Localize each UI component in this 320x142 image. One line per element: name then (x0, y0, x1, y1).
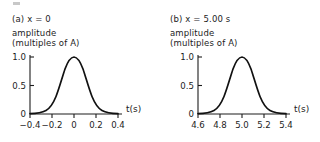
panel-b-xtick-label-2: 5.0 (235, 120, 249, 130)
panel-b-xtick-label-0: 4.6 (191, 120, 205, 130)
panel-a-xtick-label-3: 0.2 (89, 120, 103, 130)
panel-a-ytick-label-0: 0 (21, 109, 26, 119)
panel-a-xtick-label-4: 0.4 (111, 120, 125, 130)
panel-a-xaxis-name: t(s) (126, 104, 141, 114)
panel-a-xtick-label-2: 0 (71, 120, 76, 130)
panel-b-ytick-label-05: 0.5 (180, 81, 194, 91)
panel-b-xtick-label-4: 5.4 (279, 120, 293, 130)
panel-a-plot: 1.0 0.5 0 −0.4 −0.2 0 0.2 0.4 t(s) (0, 0, 160, 142)
panel-a-xtick-label-0: −0.4 (20, 120, 41, 130)
figure-wave-pulse-snapshots: (a) x = 0 amplitude (multiples of A) 1.0… (0, 0, 320, 142)
panel-b-xtick-label-1: 4.8 (213, 120, 227, 130)
panel-b-xtick-label-3: 5.2 (257, 120, 271, 130)
panel-b: (b) x = 5.00 s amplitude (multiples of A… (160, 0, 320, 142)
panel-b-xaxis-name: t(s) (294, 104, 309, 114)
panel-a-ytick-label-1: 1.0 (12, 52, 26, 62)
panel-a: (a) x = 0 amplitude (multiples of A) 1.0… (0, 0, 160, 142)
panel-a-xtick-label-1: −0.2 (42, 120, 63, 130)
panel-b-ytick-label-1: 1.0 (180, 52, 194, 62)
panel-a-curve (30, 57, 118, 114)
panel-b-ytick-label-0: 0 (189, 109, 194, 119)
panel-b-plot: 1.0 0.5 0 4.6 4.8 5.0 5.2 5.4 t(s) (160, 0, 320, 142)
panel-b-curve (198, 57, 286, 114)
panel-a-ytick-label-05: 0.5 (12, 81, 26, 91)
